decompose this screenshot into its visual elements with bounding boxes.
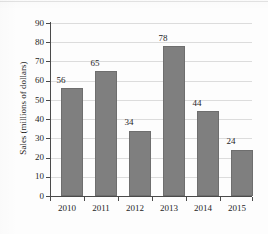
- bar-2012: [129, 131, 151, 196]
- y-tick-label-60: 60: [20, 76, 44, 85]
- y-axis-tick-labels: 90 80 70 60 50 40 30 20 10 0: [14, 0, 44, 234]
- x-axis-label-2011: 2011: [84, 203, 118, 213]
- bar-2013: [163, 46, 185, 196]
- x-tick-mark-1: [84, 197, 85, 201]
- bar-value-2012: 34: [114, 118, 144, 127]
- x-axis-label-2014: 2014: [186, 203, 220, 213]
- bar-2010: [61, 88, 83, 196]
- x-axis-label-2012: 2012: [118, 203, 152, 213]
- bar-value-2015: 24: [216, 137, 246, 146]
- y-tick-label-20: 20: [20, 153, 44, 162]
- bar-value-2014: 44: [182, 99, 212, 108]
- y-tick-label-50: 50: [20, 96, 44, 105]
- x-tick-mark-3: [152, 197, 153, 201]
- y-tick-label-0: 0: [20, 192, 44, 201]
- bar-chart: Sales (millions of dollars) 90 80 70 60 …: [0, 0, 268, 234]
- y-tick-label-30: 30: [20, 134, 44, 143]
- y-tick-label-90: 90: [20, 19, 44, 28]
- bar-2015: [231, 150, 253, 196]
- x-tick-mark-2: [118, 197, 119, 201]
- bar-value-2013: 78: [148, 34, 178, 43]
- y-tick-label-40: 40: [20, 115, 44, 124]
- x-axis-label-2013: 2013: [152, 203, 186, 213]
- y-tick-label-70: 70: [20, 57, 44, 66]
- plot-area: [50, 23, 252, 196]
- x-tick-mark-4: [186, 197, 187, 201]
- gridline-60: [50, 81, 252, 82]
- x-axis-label-2015: 2015: [220, 203, 254, 213]
- y-tick-label-10: 10: [20, 172, 44, 181]
- y-axis-line: [50, 22, 51, 197]
- gridline-90: [50, 23, 252, 24]
- x-axis-line: [50, 196, 252, 197]
- bar-2011: [95, 71, 117, 196]
- bar-2014: [197, 111, 219, 196]
- bar-value-2011: 65: [80, 59, 110, 68]
- x-tick-mark-5: [220, 197, 221, 201]
- x-tick-mark-6: [252, 197, 253, 201]
- x-tick-mark-0: [50, 197, 51, 201]
- y-tick-label-80: 80: [20, 38, 44, 47]
- x-axis-label-2010: 2010: [50, 203, 84, 213]
